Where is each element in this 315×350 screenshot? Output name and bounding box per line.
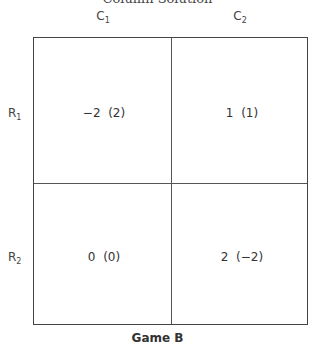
horizontal-divider (34, 183, 307, 184)
column-label-c1: C1 (96, 9, 109, 25)
payoff-matrix (33, 37, 308, 325)
cell-r2-c2: 2 (−2) (221, 250, 263, 264)
row-label-r2: R2 (8, 250, 21, 266)
cell-r2-c1: 0 (0) (88, 250, 120, 264)
cell-r1-c2: 1 (1) (226, 106, 258, 120)
column-label-c2: C2 (233, 9, 246, 25)
vertical-divider (171, 38, 172, 324)
cut-off-title: Column Solution (0, 0, 315, 6)
cell-r1-c1: −2 (2) (83, 106, 125, 120)
row-label-r1: R1 (8, 106, 21, 122)
figure-caption: Game B (0, 331, 315, 345)
